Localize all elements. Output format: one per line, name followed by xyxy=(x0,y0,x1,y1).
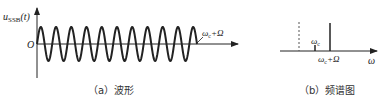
y-axis-label: uSSB(t) xyxy=(3,11,31,24)
spectrum-panel: ωc ωc+Ω ω （b）频谱图 xyxy=(280,22,377,96)
ssb-figure: uSSB(t) O ωc+Ω （a）波形 ωc ωc+Ω ω （b）频谱图 xyxy=(0,0,383,102)
omega-axis-label: ω xyxy=(368,55,375,66)
waveform-panel: uSSB(t) O ωc+Ω （a）波形 xyxy=(3,8,238,96)
spectral-line-label: ωc+Ω xyxy=(318,54,340,65)
frequency-annotation: ωc+Ω xyxy=(202,28,224,39)
caption-spectrum: （b）频谱图 xyxy=(299,84,355,96)
carrier-label: ωc xyxy=(311,36,320,47)
origin-label: O xyxy=(27,39,34,50)
caption-waveform: （a）波形 xyxy=(88,84,134,96)
